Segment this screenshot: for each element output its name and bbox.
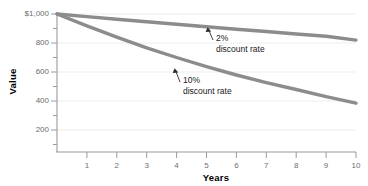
y-tick-label-1000: $1,000 bbox=[6, 9, 49, 18]
x-tick-label-6: 6 bbox=[226, 161, 246, 170]
x-tick-label-3: 3 bbox=[137, 161, 157, 170]
y-tick-label-800: 800 bbox=[6, 38, 49, 47]
annotation-10-percent-line1: 10% bbox=[183, 75, 232, 86]
annotation-2-percent-label: 2% discount rate bbox=[216, 33, 265, 54]
annotation-2-percent-line1: 2% bbox=[216, 33, 265, 44]
x-tick-label-5: 5 bbox=[197, 161, 217, 170]
series-line-2-percent bbox=[57, 14, 356, 40]
y-axis-minor-ticks bbox=[53, 29, 57, 145]
x-tick-label-4: 4 bbox=[167, 161, 187, 170]
x-tick-label-9: 9 bbox=[316, 161, 336, 170]
x-tick-label-8: 8 bbox=[286, 161, 306, 170]
x-tick-label-10: 10 bbox=[346, 161, 366, 170]
y-axis-major-ticks bbox=[51, 14, 57, 130]
annotation-10-percent-label: 10% discount rate bbox=[183, 75, 232, 96]
discount-rate-value-chart: $1,000 800 600 400 200 1 2 3 4 5 6 7 8 9… bbox=[0, 0, 368, 186]
x-axis-title: Years bbox=[186, 172, 246, 183]
y-axis-title: Value bbox=[7, 62, 18, 102]
leader-line-10-percent bbox=[173, 68, 180, 82]
leader-line-2-percent bbox=[206, 27, 213, 40]
annotation-10-percent-line2: discount rate bbox=[183, 86, 232, 97]
annotation-2-percent-line2: discount rate bbox=[216, 44, 265, 55]
x-tick-label-2: 2 bbox=[107, 161, 127, 170]
x-axis-ticks bbox=[87, 152, 356, 158]
x-tick-label-7: 7 bbox=[256, 161, 276, 170]
x-tick-label-1: 1 bbox=[77, 161, 97, 170]
y-tick-label-200: 200 bbox=[6, 125, 49, 134]
